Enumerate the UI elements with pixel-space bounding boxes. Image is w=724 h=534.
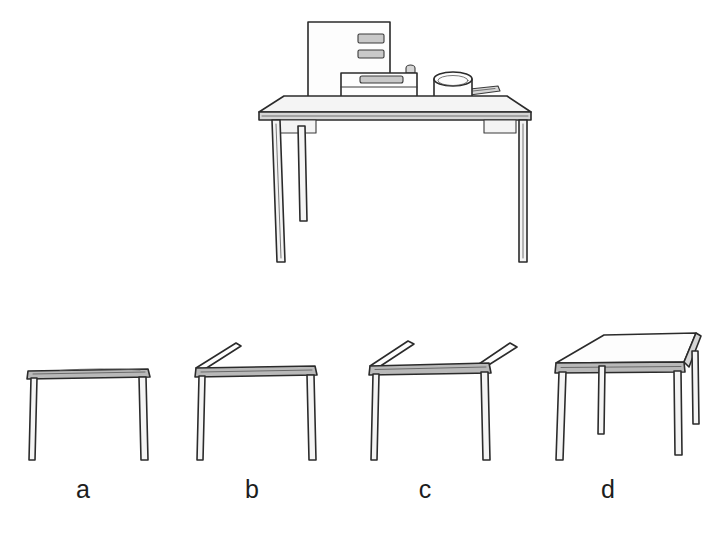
table-top-surface	[259, 96, 531, 112]
tall-box-slot-lower-fill	[358, 50, 384, 58]
figure-root: a b	[0, 0, 724, 534]
option-b-label: b	[245, 475, 259, 503]
table-apron-right-fill	[484, 120, 516, 133]
option-d-label: d	[601, 475, 615, 503]
illustration-canvas: a b	[0, 0, 724, 534]
tall-box-slot-upper-fill	[358, 34, 384, 43]
option-c-label: c	[419, 475, 432, 503]
low-box-slot-fill	[360, 76, 403, 83]
table-apron-left-fill	[276, 120, 316, 133]
option-a-label: a	[76, 475, 90, 503]
